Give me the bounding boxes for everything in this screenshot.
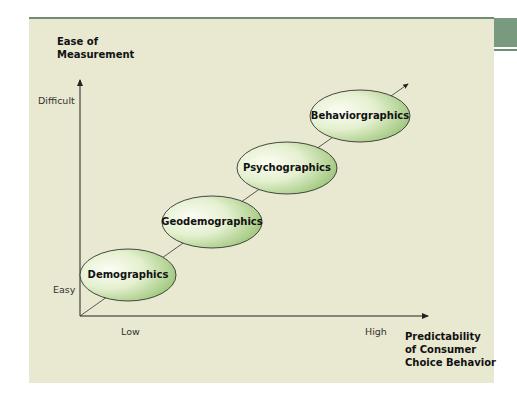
y-tick-easy: Easy	[53, 283, 75, 296]
x-axis-title-line3: Choice Behavior	[405, 356, 496, 369]
x-axis-title-line1: Predictability	[405, 330, 496, 343]
node-label-psychographics: Psychographics	[232, 162, 342, 174]
y-axis-title-line1: Ease of	[57, 35, 134, 48]
node-label-behaviorgraphics: Behaviorgraphics	[305, 110, 415, 122]
y-axis-title: Ease of Measurement	[57, 35, 134, 61]
y-axis-title-line2: Measurement	[57, 48, 134, 61]
node-label-geodemographics: Geodemographics	[157, 216, 267, 228]
x-tick-low: Low	[121, 325, 140, 338]
x-tick-high: High	[365, 325, 387, 338]
node-label-demographics: Demographics	[73, 269, 183, 281]
x-axis-title: Predictability of Consumer Choice Behavi…	[405, 330, 496, 369]
y-tick-difficult: Difficult	[38, 94, 75, 107]
x-axis-title-line2: of Consumer	[405, 343, 496, 356]
